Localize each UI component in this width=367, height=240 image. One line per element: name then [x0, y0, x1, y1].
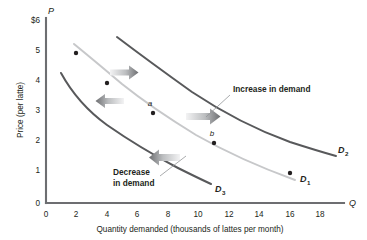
curve-label-d3-letter: D [215, 184, 222, 194]
y-tick-5: 5 [35, 46, 40, 55]
curve-label-d2-letter: D [338, 145, 345, 155]
x-tick-2: 2 [74, 210, 79, 219]
point-label-a: a [148, 99, 153, 108]
x-tick-8: 8 [166, 210, 171, 219]
curve-label-d1-letter: D [300, 174, 307, 184]
annotation-decrease-line1: Decrease [113, 167, 150, 177]
y-tick-4: 4 [35, 76, 40, 85]
curve-d2 [117, 37, 336, 156]
y-tick-6: $6 [31, 16, 41, 25]
x-tick-labels: 0 2 4 6 8 10 12 14 16 18 [44, 210, 325, 219]
data-point-b [212, 141, 216, 145]
curve-label-d1-subscript: 1 [307, 179, 311, 186]
annotation-decrease-line2: in demand [113, 178, 155, 188]
curve-label-d1: D 1 [300, 174, 311, 186]
demand-shift-figure: $6 5 4 3 2 1 0 0 2 4 6 8 10 12 14 16 18 … [0, 0, 367, 240]
x-tick-18: 18 [315, 210, 325, 219]
curve-d1 [74, 44, 295, 180]
shift-arrow-decrease-lower [149, 150, 180, 166]
y-tick-3: 3 [35, 106, 40, 115]
x-axis-symbol: Q [349, 198, 356, 208]
curve-label-d3-subscript: 3 [222, 189, 226, 196]
x-tick-4: 4 [105, 210, 110, 219]
x-tick-10: 10 [193, 210, 203, 219]
annotation-increase-in-demand: Increase in demand [233, 84, 310, 94]
data-point-a [151, 111, 155, 115]
curve-label-d2: D 2 [338, 145, 349, 157]
x-tick-16: 16 [285, 210, 295, 219]
y-axis-symbol: P [48, 6, 54, 16]
y-tick-2: 2 [35, 136, 40, 145]
y-tick-1: 1 [35, 166, 40, 175]
shift-arrow-increase-lower [186, 109, 221, 125]
x-axis-title: Quantity demanded (thousands of lattes p… [96, 225, 283, 234]
curve-label-d3: D 3 [215, 184, 226, 196]
x-tick-14: 14 [254, 210, 264, 219]
y-axis-title: Price (per latte) [16, 82, 25, 138]
data-point-4-4 [105, 81, 109, 85]
curve-label-d2-subscript: 2 [345, 150, 349, 157]
shift-arrow-decrease-upper [96, 94, 125, 108]
point-label-b: b [210, 129, 215, 138]
x-tick-12: 12 [224, 210, 234, 219]
x-tick-6: 6 [135, 210, 140, 219]
y-tick-0: 0 [35, 199, 40, 208]
data-points [74, 51, 292, 175]
x-tick-0: 0 [44, 210, 49, 219]
y-tick-labels: $6 5 4 3 2 1 0 [31, 16, 41, 208]
data-point-2-5 [74, 51, 78, 55]
data-point-16-1 [288, 171, 292, 175]
demand-curve-chart: $6 5 4 3 2 1 0 0 2 4 6 8 10 12 14 16 18 … [0, 0, 367, 240]
